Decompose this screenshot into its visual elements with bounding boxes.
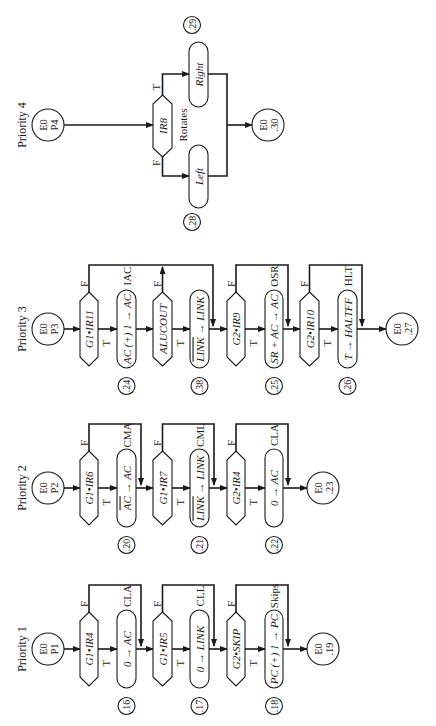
- state-number: .22: [266, 537, 283, 554]
- decision-label: ALUCOUT: [157, 303, 169, 355]
- false-label: F: [151, 281, 163, 287]
- terminal-line2: .27: [403, 322, 414, 335]
- instruction-label: CLL: [194, 585, 206, 606]
- decision-label: G2•SKIP: [230, 628, 242, 669]
- instruction-label: CMA: [121, 422, 133, 447]
- false-arrow: [163, 157, 190, 176]
- decision-label: G1•IR6: [83, 471, 95, 505]
- decision-node: ALUCOUT: [153, 292, 172, 366]
- instruction-label: Rotates: [177, 109, 189, 142]
- state-label: .25: [269, 380, 280, 393]
- process-label: 0 → AC: [121, 630, 133, 667]
- decision-label: G2•IR4: [230, 471, 242, 505]
- false-label: F: [150, 160, 162, 166]
- process-node: Right: [189, 42, 208, 107]
- flowchart-diagram: Priority 1E0P1G1•IR4TF0 → AC.16CLAG1•IR5…: [0, 0, 436, 726]
- state-label: .26: [342, 380, 353, 393]
- process-node: T → HALTFF: [338, 290, 357, 368]
- state-label: .18: [269, 700, 280, 713]
- state-number: .20: [118, 537, 135, 554]
- flow-priority-2: Priority 2E0P2G1•IR6TFAC → AC.20CMAG1•IR…: [15, 422, 339, 553]
- priority-label: Priority 2: [15, 465, 29, 511]
- true-label: T: [100, 498, 112, 505]
- flowchart-canvas: Priority 1E0P1G1•IR4TF0 → AC.16CLAG1•IR5…: [0, 0, 436, 726]
- decision-label: IR8: [157, 118, 169, 135]
- state-number: .29: [184, 17, 201, 34]
- process-label: PC (+) 1 → PC: [268, 613, 281, 685]
- state-number: .17: [191, 698, 208, 715]
- true-label: T: [247, 339, 259, 346]
- priority-label: Priority 3: [15, 306, 29, 352]
- process-label: Left: [193, 167, 205, 186]
- instruction-label: CLA: [268, 424, 280, 446]
- process-label: SR + AC → AC: [268, 294, 280, 364]
- flow-priority-1: Priority 1E0P1G1•IR4TF0 → AC.16CLAG1•IR5…: [15, 584, 339, 715]
- process-node: 0 → AC: [117, 610, 136, 688]
- decision-node: G2•SKIP: [227, 612, 245, 686]
- priority-label: Priority 4: [15, 102, 29, 148]
- start-terminal: E0P1: [32, 633, 64, 665]
- instruction-label: HLT: [342, 266, 354, 287]
- end-terminal: E0.19: [307, 633, 339, 665]
- terminal-line1: E0: [313, 643, 324, 655]
- true-label: T: [174, 339, 186, 346]
- state-label: .38: [194, 380, 205, 393]
- process-label: AC (+) 1 → AC: [121, 293, 134, 365]
- decision-node: IR8: [153, 95, 172, 157]
- state-label: .20: [121, 539, 132, 552]
- flow-priority-3: Priority 3E0P3G1•IR11TFAC (+) 1 → AC.24I…: [15, 265, 418, 395]
- end-terminal: E0.27: [386, 313, 418, 345]
- decision-node: G2•IR4: [227, 451, 245, 525]
- true-arrow: [163, 74, 190, 95]
- true-label: T: [150, 83, 162, 90]
- terminal-line1: E0: [38, 643, 49, 655]
- state-number: .16: [118, 698, 135, 715]
- terminal-line2: P1: [49, 643, 60, 654]
- false-label: F: [151, 601, 163, 607]
- state-label: .24: [121, 380, 132, 393]
- decision-node: G1•IR4: [80, 612, 98, 686]
- state-label: .22: [269, 539, 280, 552]
- terminal-line2: P3: [49, 323, 60, 334]
- decision-label: G2•IR9: [230, 312, 242, 346]
- instruction-label: OSR: [268, 265, 280, 287]
- state-label: .17: [194, 700, 205, 713]
- decision-node: G2•IR9: [227, 292, 245, 366]
- state-number: .18: [266, 698, 283, 715]
- terminal-line2: P2: [49, 482, 60, 493]
- process-label: T → HALTFF: [342, 297, 354, 360]
- process-node: SR + AC → AC: [265, 290, 283, 368]
- state-label: .16: [121, 700, 132, 713]
- terminal-line1: E0: [258, 119, 269, 131]
- state-number: .26: [339, 378, 356, 395]
- process-node: 0 → AC: [265, 449, 283, 527]
- terminal-line1: E0: [38, 482, 49, 494]
- terminal-line2: .30: [269, 118, 280, 131]
- process-node: LINK → LINK: [190, 290, 209, 368]
- start-terminal: E0P2: [32, 472, 64, 504]
- state-label: .21: [194, 539, 205, 552]
- decision-node: G2•IR10: [300, 292, 319, 366]
- merge-line: [208, 74, 227, 176]
- decision-label: G1•IR7: [157, 471, 169, 505]
- flow-priority-4: Priority 4E0P4IR8RotatesTFRightLeft.29.2…: [15, 17, 284, 231]
- state-label: .29: [187, 19, 198, 32]
- instruction-label: IAC: [121, 267, 133, 286]
- process-label: Right: [193, 62, 205, 88]
- decision-label: G2•IR10: [304, 309, 316, 348]
- false-label: F: [151, 440, 163, 446]
- decision-label: G1•IR11: [83, 310, 95, 348]
- priority-label: Priority 1: [15, 626, 29, 672]
- true-label: T: [100, 339, 112, 346]
- process-label: LINK → LINK: [194, 296, 206, 363]
- true-label: T: [247, 498, 259, 505]
- process-label: LINK → LINK: [194, 455, 206, 522]
- state-number: .24: [118, 378, 135, 395]
- process-label: 0 → LINK: [194, 625, 206, 672]
- state-number: .21: [191, 537, 208, 554]
- true-label: T: [174, 659, 186, 666]
- decision-node: G1•IR7: [153, 451, 172, 525]
- state-number: .38: [191, 378, 208, 395]
- instruction-label: Skips: [268, 584, 280, 608]
- decision-node: G1•IR5: [153, 612, 172, 686]
